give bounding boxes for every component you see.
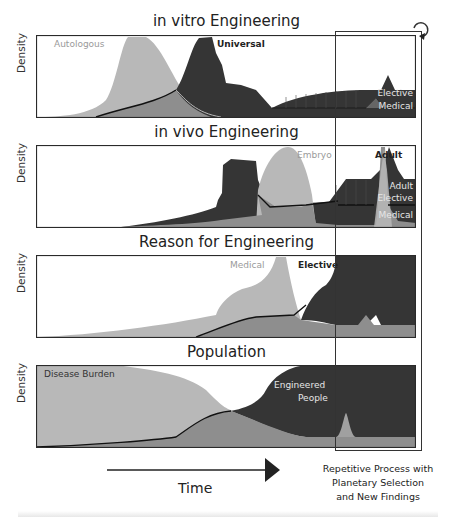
label-engineered-line1: Engineered xyxy=(274,380,325,390)
cycle-arrow-icon xyxy=(410,16,438,44)
label-autologous: Autologous xyxy=(54,39,105,49)
cropped-caption-text xyxy=(18,511,438,517)
y-axis-label: Density xyxy=(14,390,28,430)
y-axis-label: Density xyxy=(14,170,28,210)
panel-title-in-vitro: in vitro Engineering xyxy=(0,12,453,30)
label-disease-burden: Disease Burden xyxy=(44,369,115,379)
label-medical: Medical xyxy=(230,260,264,270)
label-engineered-line2: People xyxy=(298,393,328,403)
repetitive-process-box xyxy=(335,31,422,451)
label-elective: Elective xyxy=(298,260,338,270)
repetitive-process-caption: Repetitive Process with Planetary Select… xyxy=(314,462,442,504)
y-axis-label: Density xyxy=(14,60,28,100)
time-arrow-icon xyxy=(105,458,285,482)
label-embryo: Embryo xyxy=(297,150,332,160)
label-universal: Universal xyxy=(217,39,265,49)
x-axis-label-time: Time xyxy=(178,480,212,496)
y-axis-label: Density xyxy=(14,280,28,320)
